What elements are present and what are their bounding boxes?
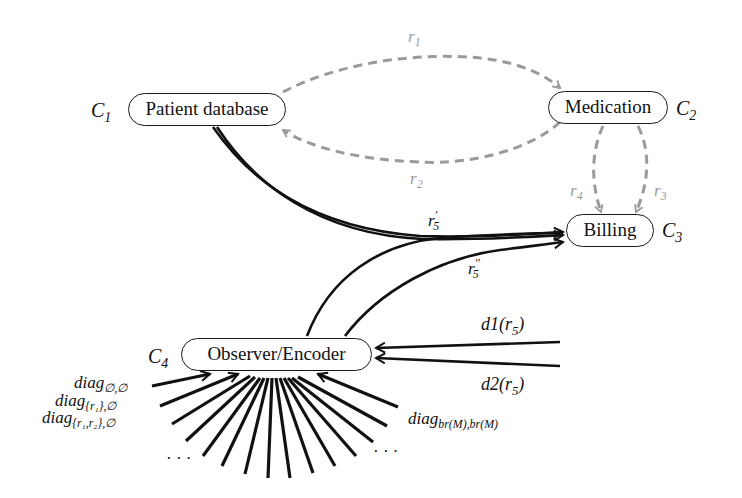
node-medication[interactable]: Medication — [548, 91, 668, 124]
edge-label-d2: d2(r5) — [481, 375, 524, 397]
edge-label-r5-double-prime: r′′5 — [468, 258, 479, 281]
node-patient-database[interactable]: Patient database — [128, 93, 286, 126]
component-id-c4: C4 — [148, 346, 168, 371]
edge-diag-00 — [152, 374, 210, 386]
edge-label-r1: r1 — [408, 28, 421, 49]
component-id-c3: C3 — [662, 220, 682, 245]
node-label: Patient database — [146, 98, 269, 119]
node-label: Medication — [565, 96, 652, 117]
edge-r5pp-a — [307, 233, 563, 336]
ellipsis-left: · · · — [166, 450, 191, 467]
edge-r1 — [283, 56, 560, 92]
node-observer-encoder[interactable]: Observer/Encoder — [181, 338, 372, 371]
edge-label-r2: r2 — [410, 170, 423, 191]
edge-d1 — [376, 342, 560, 348]
component-id-c2: C2 — [676, 98, 696, 123]
diag-label-br-br: diagbr(M),br(M) — [408, 410, 498, 431]
edge-label-d1: d1(r5) — [481, 315, 524, 337]
edge-d2 — [376, 358, 560, 366]
node-label: Observer/Encoder — [207, 343, 345, 364]
edge-label-r3: r3 — [654, 182, 667, 203]
edge-r5p-b — [217, 127, 563, 239]
node-label: Billing — [584, 219, 637, 240]
diagram-canvas: Patient database Medication Billing Obse… — [0, 0, 742, 498]
edge-r3 — [636, 126, 647, 212]
ellipsis-right: · · · — [373, 443, 398, 460]
diag-label-r1r2-empty: diag{r₁,r₂},∅ — [42, 409, 115, 430]
node-billing[interactable]: Billing — [566, 214, 654, 247]
component-id-c1: C1 — [91, 100, 111, 125]
edge-label-r5-prime: r′5 — [428, 210, 439, 233]
edge-label-r4: r4 — [570, 182, 583, 203]
edge-r2 — [283, 122, 560, 162]
edge-r4 — [594, 126, 603, 212]
